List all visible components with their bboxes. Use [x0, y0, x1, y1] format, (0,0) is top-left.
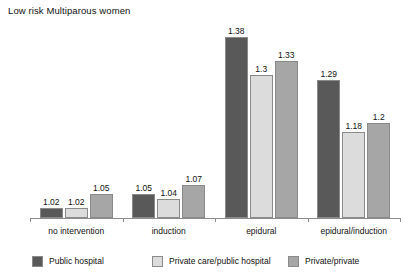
- bar: [90, 194, 113, 218]
- bar: [65, 208, 88, 218]
- bar-column: 1.02: [40, 18, 63, 218]
- legend-swatch-icon: [32, 256, 43, 267]
- legend-item[interactable]: Public hospital: [32, 254, 104, 268]
- bar: [132, 194, 155, 218]
- bar-group: 1.051.041.07: [123, 18, 216, 218]
- chart-legend: Public hospitalPrivate care/public hospi…: [0, 254, 416, 270]
- bar-column: 1.18: [342, 18, 365, 218]
- x-axis-tick: [215, 218, 216, 222]
- bar-group: 1.381.31.33: [215, 18, 308, 218]
- bar-column: 1.05: [90, 18, 113, 218]
- bar-value-label: 1.3: [255, 65, 267, 74]
- category-label: epidural/induction: [320, 226, 387, 236]
- x-axis-tick: [30, 218, 31, 222]
- bar-column: 1.33: [275, 18, 298, 218]
- legend-swatch-icon: [288, 256, 299, 267]
- bar-group-bars: 1.381.31.33: [215, 18, 308, 218]
- x-axis-tick: [123, 218, 124, 222]
- bar: [250, 75, 273, 218]
- bar: [157, 199, 180, 218]
- bar-column: 1.07: [182, 18, 205, 218]
- legend-item[interactable]: Private/private: [288, 254, 359, 268]
- bar: [225, 37, 248, 218]
- bar: [367, 123, 390, 218]
- bar-column: 1.02: [65, 18, 88, 218]
- bar-value-label: 1.33: [278, 51, 295, 60]
- bar-value-label: 1.04: [160, 189, 177, 198]
- bar: [342, 132, 365, 218]
- category-label: no intervention: [48, 226, 104, 236]
- legend-swatch-icon: [152, 256, 163, 267]
- bar-value-label: 1.29: [320, 70, 337, 79]
- bar: [317, 80, 340, 218]
- bar: [40, 208, 63, 218]
- plot-area: 1.021.021.051.051.041.071.381.31.331.291…: [30, 18, 400, 218]
- bar: [275, 61, 298, 218]
- bar-column: 1.38: [225, 18, 248, 218]
- bar-value-label: 1.05: [135, 184, 152, 193]
- legend-label: Private care/public hospital: [169, 256, 271, 266]
- legend-label: Public hospital: [49, 256, 104, 266]
- bar-group-bars: 1.291.181.2: [308, 18, 401, 218]
- bar-chart: Low risk Multiparous women 1.021.021.051…: [0, 0, 416, 276]
- bar-column: 1.3: [250, 18, 273, 218]
- bar-value-label: 1.02: [68, 198, 85, 207]
- bar-value-label: 1.02: [43, 198, 60, 207]
- x-axis-tick: [308, 218, 309, 222]
- bar-column: 1.05: [132, 18, 155, 218]
- x-axis-tick: [400, 218, 401, 222]
- bar-value-label: 1.05: [93, 184, 110, 193]
- category-label: epidural: [246, 226, 276, 236]
- category-label: induction: [152, 226, 186, 236]
- bar-group: 1.291.181.2: [308, 18, 401, 218]
- legend-label: Private/private: [305, 256, 359, 266]
- bar-column: 1.29: [317, 18, 340, 218]
- bar-value-label: 1.38: [228, 27, 245, 36]
- chart-title: Low risk Multiparous women: [8, 5, 130, 16]
- bar-column: 1.04: [157, 18, 180, 218]
- bar: [182, 185, 205, 218]
- legend-item[interactable]: Private care/public hospital: [152, 254, 271, 268]
- bar-column: 1.2: [367, 18, 390, 218]
- bar-group: 1.021.021.05: [30, 18, 123, 218]
- bar-group-bars: 1.051.041.07: [123, 18, 216, 218]
- bar-group-bars: 1.021.021.05: [30, 18, 123, 218]
- bar-value-label: 1.07: [185, 175, 202, 184]
- bar-value-label: 1.18: [345, 122, 362, 131]
- bar-value-label: 1.2: [373, 113, 385, 122]
